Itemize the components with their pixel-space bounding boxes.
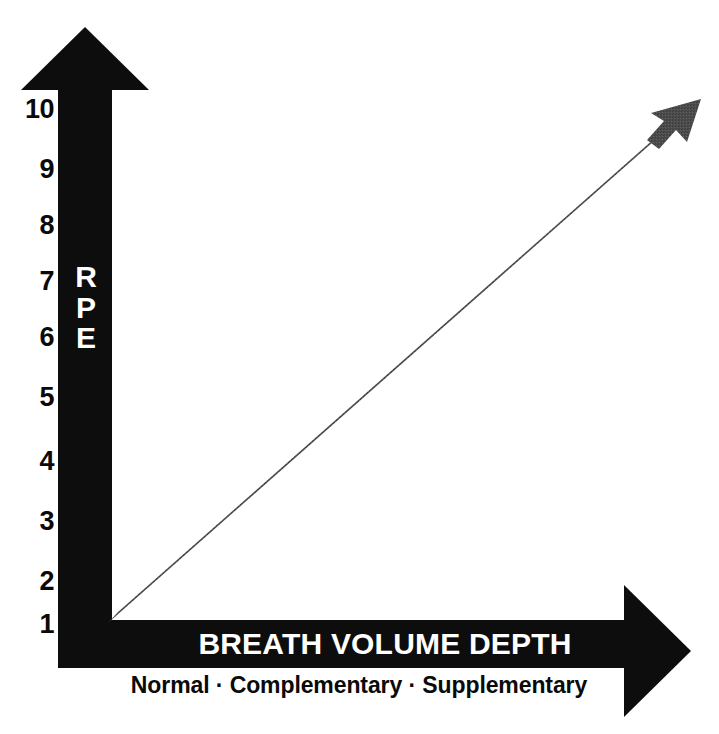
y-axis-title-letter-r: R [60, 262, 112, 293]
rpe-breath-volume-chart: 10 9 8 7 6 5 4 3 2 1 R P E BREATH VOLUME… [0, 0, 719, 734]
y-tick-label-2: 2 [8, 568, 54, 595]
y-axis-tick-labels: 10 9 8 7 6 5 4 3 2 1 [8, 96, 54, 636]
y-axis-title-letter-e: E [60, 323, 112, 354]
y-tick-label-4: 4 [8, 448, 54, 475]
y-tick-label-7: 7 [8, 268, 54, 295]
y-axis-title-letter-p: P [60, 293, 112, 324]
y-axis-title: R P E [60, 262, 112, 354]
y-tick-label-10: 10 [8, 96, 54, 123]
y-tick-label-9: 9 [8, 156, 54, 183]
y-tick-label-8: 8 [8, 212, 54, 239]
x-axis-subtitle: Normal · Complementary · Supplementary [85, 672, 633, 699]
x-axis-title: BREATH VOLUME DEPTH [150, 621, 620, 667]
y-tick-label-6: 6 [8, 324, 54, 351]
y-tick-label-1: 1 [8, 611, 54, 638]
trend-arrow [108, 99, 701, 623]
y-tick-label-5: 5 [8, 384, 54, 411]
y-tick-label-3: 3 [8, 508, 54, 535]
